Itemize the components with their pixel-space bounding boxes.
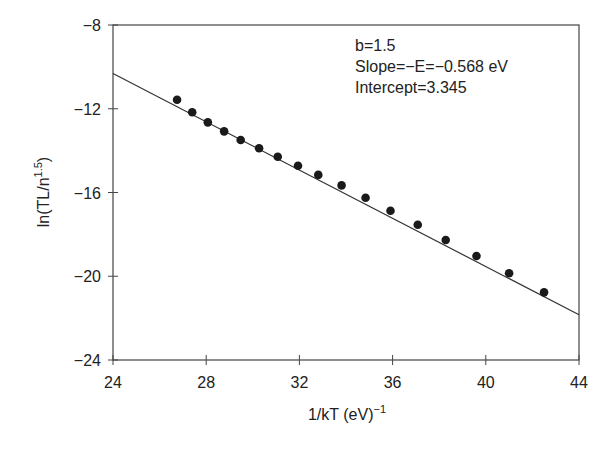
x-tick-label: 28 <box>197 374 215 391</box>
y-tick-label: −20 <box>74 268 101 285</box>
annotation-box: b=1.5 Slope=−E=−0.568 eV Intercept=3.345 <box>355 37 508 96</box>
data-point <box>472 252 481 261</box>
data-point <box>314 171 323 180</box>
data-point <box>337 181 346 190</box>
data-point <box>386 206 395 215</box>
x-tick-label: 24 <box>104 374 122 391</box>
plot-border <box>113 25 579 360</box>
y-tick-label: −16 <box>74 185 101 202</box>
regression-line <box>113 74 579 315</box>
x-tick-label: 36 <box>384 374 402 391</box>
x-tick-label: 32 <box>291 374 309 391</box>
annotation-intercept: Intercept=3.345 <box>355 79 467 96</box>
data-point <box>505 269 514 278</box>
data-points <box>173 95 549 296</box>
x-tick-label: 44 <box>570 374 588 391</box>
data-point <box>273 152 282 161</box>
data-point <box>540 288 549 297</box>
y-tick-label: −24 <box>74 352 101 369</box>
plot-frame <box>113 25 579 360</box>
data-point <box>173 95 182 104</box>
annotation-b: b=1.5 <box>355 37 396 54</box>
annotation-slope: Slope=−E=−0.568 eV <box>355 58 508 75</box>
y-axis-label: ln(TL/n1.5) <box>32 157 52 227</box>
data-point <box>204 118 213 127</box>
data-point <box>413 220 422 229</box>
y-tick-label: −12 <box>74 101 101 118</box>
x-tick-label: 40 <box>477 374 495 391</box>
y-tick-label: −8 <box>83 17 101 34</box>
data-point <box>220 127 229 136</box>
fit-line <box>113 74 579 315</box>
data-point <box>441 236 450 245</box>
chart: 242832364044 −8−12−16−20−24 b=1.5 Slope=… <box>0 0 615 463</box>
data-point <box>188 108 197 117</box>
y-axis-ticks: −8−12−16−20−24 <box>74 17 118 369</box>
x-axis-label: 1/kT (eV)−1 <box>308 403 386 423</box>
data-point <box>361 193 370 202</box>
data-point <box>294 161 303 170</box>
data-point <box>255 144 264 153</box>
data-point <box>236 136 245 145</box>
